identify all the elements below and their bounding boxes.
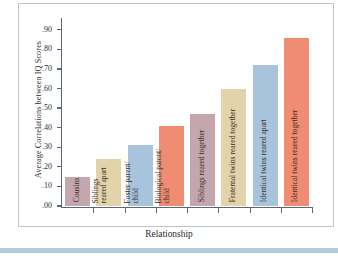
y-tick: .10: [0, 181, 62, 191]
y-tick: .70: [0, 64, 62, 74]
y-tick-label: .10: [42, 181, 52, 191]
bar-label: Cousins: [72, 178, 80, 202]
y-tick-label: .90: [42, 25, 52, 35]
figure: Average Correlations between IQ Scores .…: [0, 0, 338, 260]
x-tick-mark: [218, 208, 219, 213]
bar: Siblingsreared apart: [96, 159, 121, 206]
y-tick: .80: [0, 44, 62, 54]
y-tick-label: .70: [42, 64, 52, 74]
y-tick: .40: [0, 123, 62, 133]
y-tick: .20: [0, 162, 62, 172]
y-tick-label: .40: [42, 123, 52, 133]
y-tick-label: .00: [42, 201, 52, 211]
x-tick-mark: [281, 208, 282, 213]
x-tick-mark: [125, 208, 126, 213]
bar: Biological parent/child: [159, 126, 184, 206]
bar-label: Fraternal twins reared together: [229, 109, 237, 202]
y-tick: .50: [0, 103, 62, 113]
y-tick-label: .50: [42, 103, 52, 113]
decorative-band-lower: [0, 253, 338, 260]
y-tick: .00: [0, 201, 62, 211]
plot-area: CousinsSiblingsreared apartFoster parent…: [62, 20, 312, 206]
y-tick: .60: [0, 84, 62, 94]
y-tick-label: .80: [42, 44, 52, 54]
y-tick: .30: [0, 142, 62, 152]
y-tick: .90: [0, 25, 62, 35]
bar-label: Siblingsreared apart: [92, 143, 108, 203]
bar-label: Identical twins reared together: [291, 109, 299, 202]
bar-label: Siblings reared together: [197, 129, 205, 202]
bar-label: Identical twins reared apart: [260, 119, 268, 202]
x-tick-mark: [156, 208, 157, 213]
x-tick-mark: [312, 208, 313, 213]
y-tick-label: .60: [42, 84, 52, 94]
bar-label: Foster parent/child: [123, 143, 139, 203]
x-tick-mark: [187, 208, 188, 213]
bar: Identical twins reared together: [284, 38, 309, 206]
bar: Foster parent/child: [128, 145, 153, 206]
x-tick-mark: [250, 208, 251, 213]
bar: Siblings reared together: [190, 114, 215, 206]
x-axis-title: Relationship: [0, 229, 338, 239]
y-tick-label: .20: [42, 162, 52, 172]
x-tick-mark: [93, 208, 94, 213]
y-tick-label: .30: [42, 142, 52, 152]
bar: Fraternal twins reared together: [221, 89, 246, 206]
bar-label: Biological parent/child: [155, 143, 171, 203]
bar: Identical twins reared apart: [253, 65, 278, 206]
bar: Cousins: [65, 177, 90, 206]
